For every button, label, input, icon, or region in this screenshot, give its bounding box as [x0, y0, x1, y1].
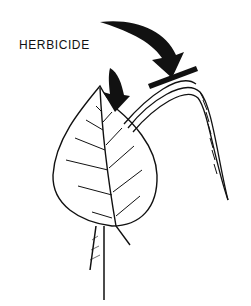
broadleaf-leaf	[53, 86, 157, 300]
arrow-to-leaf	[103, 68, 130, 112]
herbicide-label: HERBICIDE	[19, 38, 90, 52]
illustration: HERBICIDE	[0, 0, 251, 306]
grass-blade	[124, 81, 228, 200]
